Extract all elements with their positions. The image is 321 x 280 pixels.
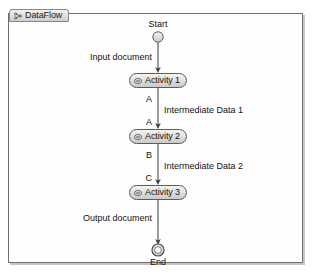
activity-node-1-label: Activity 1 (145, 76, 180, 85)
edge-label-intermediate-data-1: Intermediate Data 1 (164, 105, 243, 115)
linked-nodes-icon (14, 12, 22, 20)
edge-label-intermediate-data-2: Intermediate Data 2 (164, 161, 243, 171)
activity-node-2[interactable]: Activity 2 (129, 129, 187, 144)
edge-label-pin-a-out-1: A (146, 94, 152, 104)
edge-label-output-document: Output document (83, 213, 152, 223)
activity-node-3[interactable]: Activity 3 (129, 185, 187, 200)
edge-label-pin-c-in-3: C (146, 173, 153, 183)
diagram-tab-label: DataFlow (25, 11, 62, 20)
activity-node-1[interactable]: Activity 1 (129, 73, 187, 88)
edge-label-pin-a-in-2: A (146, 117, 152, 127)
end-node-label: End (150, 257, 166, 267)
start-node-label: Start (148, 19, 167, 29)
collapsed-minus-icon[interactable] (134, 134, 142, 140)
diagram-tab[interactable]: DataFlow (9, 9, 69, 22)
edge-label-input-document: Input document (90, 52, 152, 62)
collapsed-minus-icon[interactable] (134, 190, 142, 196)
collapsed-minus-icon[interactable] (134, 78, 142, 84)
edge-label-pin-b-out-2: B (146, 150, 152, 160)
activity-node-2-label: Activity 2 (145, 132, 180, 141)
activity-node-3-label: Activity 3 (145, 188, 180, 197)
